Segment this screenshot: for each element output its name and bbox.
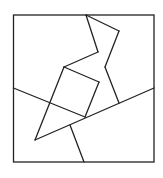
segment-notch-to-lower-right [105,67,119,103]
geometric-line-diagram [0,0,163,178]
segment-right-peak-to-notch [105,31,119,67]
segment-mid-to-square-top [64,52,98,67]
segment-left-edge-diagonal [14,88,86,117]
segment-square-top-to-square-right [64,67,99,82]
segment-square-right-to-square-bottom [85,82,99,117]
segment-bottom-stem [70,125,84,162]
line-segments [14,15,155,162]
